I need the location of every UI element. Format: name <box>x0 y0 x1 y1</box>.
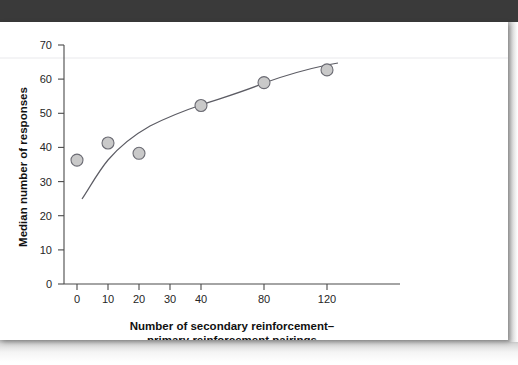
y-axis-title: Median number of responses <box>17 87 29 247</box>
y-tick-label-0: 0 <box>46 278 52 290</box>
x-tick-label-80: 80 <box>258 293 270 305</box>
x-tick-label-20: 20 <box>133 293 145 305</box>
x-axis-title-line2: primary reinforcement pairings <box>147 334 317 340</box>
y-tick-label-20: 20 <box>40 210 52 222</box>
x-tick-label-120: 120 <box>318 293 336 305</box>
y-tick-label-60: 60 <box>40 73 52 85</box>
data-point-0 <box>71 154 83 166</box>
data-point-80 <box>258 77 270 89</box>
chart-figure: 0 10 20 30 40 50 60 70 0 10 20 <box>0 22 508 340</box>
y-tick-label-70: 70 <box>40 39 52 51</box>
data-point-120 <box>321 64 333 76</box>
x-tick-label-40: 40 <box>195 293 207 305</box>
page-shadow-bottom <box>0 340 518 365</box>
data-points <box>71 64 333 166</box>
y-tick-label-50: 50 <box>40 107 52 119</box>
x-tick-label-0: 0 <box>74 293 80 305</box>
x-tick-label-10: 10 <box>102 293 114 305</box>
y-axis-ticks: 0 10 20 30 40 50 60 70 <box>40 39 64 290</box>
data-point-10 <box>102 137 114 149</box>
scatter-plot-svg: 0 10 20 30 40 50 60 70 0 10 20 <box>0 22 508 340</box>
top-dark-band <box>0 0 518 22</box>
page-shadow-right <box>508 22 518 342</box>
data-point-20 <box>133 147 145 159</box>
y-tick-label-30: 30 <box>40 176 52 188</box>
y-tick-label-40: 40 <box>40 141 52 153</box>
x-axis-title-line1: Number of secondary reinforcement– <box>130 320 335 332</box>
x-axis-ticks: 0 10 20 30 40 80 120 <box>74 284 336 305</box>
data-point-40 <box>195 100 207 112</box>
figure-root: 0 10 20 30 40 50 60 70 0 10 20 <box>0 0 518 365</box>
y-tick-label-10: 10 <box>40 244 52 256</box>
fitted-curve <box>82 63 338 199</box>
x-tick-label-30: 30 <box>164 293 176 305</box>
